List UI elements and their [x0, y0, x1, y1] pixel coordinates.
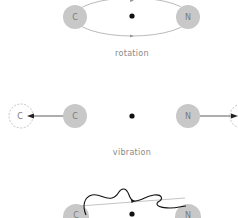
- atom-n-label: N: [185, 13, 191, 22]
- atom-n-label: N: [185, 211, 191, 218]
- atom-c-label: C: [73, 211, 79, 218]
- center-of-mass-dot: [129, 113, 134, 118]
- atom-n-label: N: [185, 112, 191, 121]
- vibration-panel: C C N: [9, 104, 238, 128]
- orbit-arrow-top-icon: [130, 0, 134, 2]
- atom-c-label: C: [72, 112, 78, 121]
- arrow-left-icon: [27, 114, 34, 119]
- rotation-caption: rotation: [92, 49, 172, 58]
- orbit-arrow-bottom-icon: [130, 35, 134, 38]
- wave-arrow-icon: [131, 199, 135, 203]
- rotation-panel: C N: [63, 0, 200, 38]
- atom-c-label: C: [72, 13, 78, 22]
- vibration-caption: vibration: [92, 148, 172, 157]
- bending-panel: C N: [63, 189, 201, 218]
- center-of-mass-dot: [129, 13, 134, 18]
- displaced-atom-c-label: C: [17, 112, 23, 121]
- center-of-mass-dot: [129, 211, 134, 216]
- arrow-right-icon: [231, 114, 238, 119]
- molecule-motion-diagram: C N C C N C N: [0, 0, 238, 218]
